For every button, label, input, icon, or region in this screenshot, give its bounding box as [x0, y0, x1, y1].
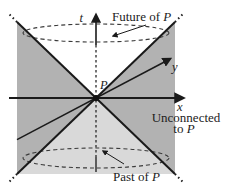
origin-label: P [99, 78, 108, 92]
past-label: Past of P [113, 169, 160, 184]
t-axis-label: t [80, 11, 84, 25]
light-cone-dash-top-right [175, 13, 184, 22]
light-cone-dash-bottom-right [175, 174, 184, 183]
light-cone-dash-bottom-left [8, 174, 17, 183]
spacetime-light-cone-diagram: t x y P Future of P Past of P Unconnecte… [0, 0, 229, 185]
origin-dot [93, 95, 99, 101]
unconnected-label-line2: to P [173, 121, 194, 136]
light-cone-dash-top-left [8, 13, 17, 22]
y-axis-label: y [170, 60, 178, 74]
future-label: Future of P [112, 9, 171, 24]
